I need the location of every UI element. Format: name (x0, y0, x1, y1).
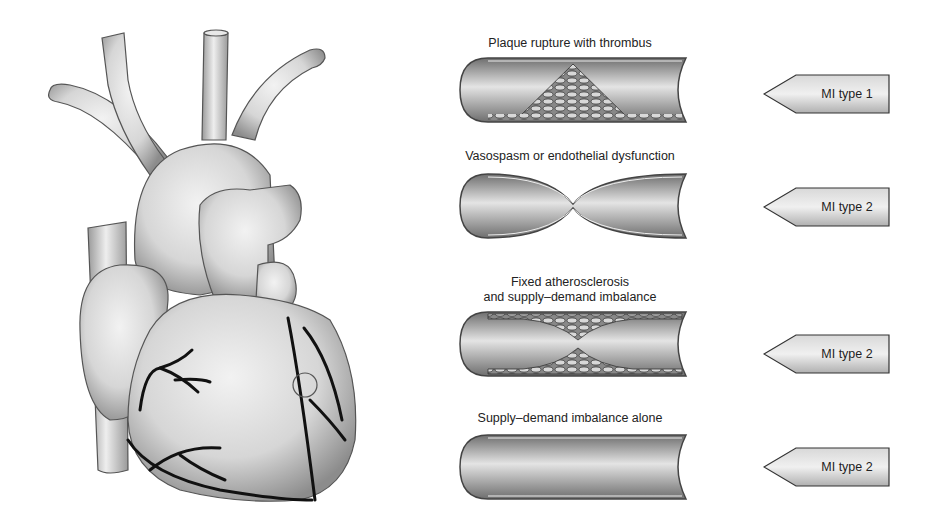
mi-type-tag-3: MI type 2 (763, 334, 891, 374)
vessel-vasospasm (458, 172, 688, 240)
mi-type-tag-4: MI type 2 (763, 447, 891, 487)
great-vessels (49, 30, 356, 501)
panel-4-label: Supply–demand imbalance alone (460, 411, 680, 426)
panel-2-label: Vasospasm or endothelial dysfunction (440, 149, 700, 164)
vessel-fixed-atherosclerosis (458, 310, 688, 378)
vessel-plaque-rupture-thrombus (458, 56, 688, 124)
panel-3-label: Fixed atherosclerosis and supply–demand … (440, 275, 700, 305)
vessel-normal (458, 433, 688, 501)
panel-1-label: Plaque rupture with thrombus (460, 36, 680, 51)
mi-type-tag-1: MI type 1 (763, 74, 891, 114)
mi-type-tag-2: MI type 2 (763, 187, 891, 227)
heart-illustration (0, 0, 420, 527)
